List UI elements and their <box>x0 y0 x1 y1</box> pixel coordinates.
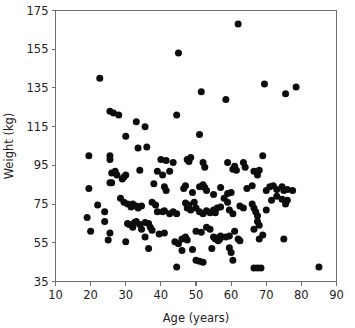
data-point <box>280 235 287 242</box>
data-point <box>122 238 129 245</box>
x-tick-label: 70 <box>259 288 274 302</box>
data-point <box>182 182 189 189</box>
data-point <box>106 156 113 163</box>
data-point <box>261 81 268 88</box>
data-point <box>119 175 126 182</box>
y-tick-label: 75 <box>34 197 49 211</box>
data-point <box>138 226 145 233</box>
data-point <box>224 159 231 166</box>
data-point <box>289 187 296 194</box>
data-point <box>106 230 113 237</box>
y-axis-title: Weight (kg) <box>2 113 16 180</box>
data-point <box>250 226 257 233</box>
data-point <box>207 226 214 233</box>
data-point <box>196 131 203 138</box>
x-tick-label: 50 <box>189 288 204 302</box>
y-tick-label: 55 <box>34 236 49 250</box>
data-point <box>187 154 194 161</box>
data-point <box>282 90 289 97</box>
data-point <box>257 264 264 271</box>
data-point <box>170 159 177 166</box>
x-tick-label: 60 <box>224 288 239 302</box>
data-point <box>84 214 91 221</box>
y-tick-label: 35 <box>34 275 49 289</box>
data-point <box>87 228 94 235</box>
data-point <box>163 187 170 194</box>
data-point <box>142 233 149 240</box>
data-point <box>161 230 168 237</box>
y-tick-label: 135 <box>27 81 49 95</box>
data-point <box>217 203 224 210</box>
data-point <box>96 75 103 82</box>
data-point <box>108 179 115 186</box>
x-tick-label: 90 <box>329 288 344 302</box>
data-point <box>222 96 229 103</box>
data-point <box>201 164 208 171</box>
data-point <box>175 240 182 247</box>
scatter-plot-figure: 35557595115135155175 102030405060708090 … <box>0 0 355 328</box>
data-point <box>189 189 196 196</box>
data-point <box>163 157 170 164</box>
data-point <box>224 199 231 206</box>
x-tick-label: 20 <box>83 288 98 302</box>
data-point <box>152 202 159 209</box>
data-point <box>85 185 92 192</box>
data-point <box>200 259 207 266</box>
data-point <box>85 152 92 159</box>
data-point <box>226 233 233 240</box>
data-point <box>150 180 157 187</box>
data-point <box>259 152 266 159</box>
data-point <box>143 143 150 150</box>
scatter-markers <box>84 21 323 272</box>
data-point <box>198 229 205 236</box>
data-point <box>145 245 152 252</box>
y-tick-label: 155 <box>27 42 49 56</box>
data-point <box>229 210 236 217</box>
data-point <box>236 237 243 244</box>
y-axis-ticks: 35557595115135155175 <box>27 4 56 289</box>
data-point <box>228 189 235 196</box>
data-point <box>184 236 191 243</box>
data-point <box>101 218 108 225</box>
data-point <box>122 133 129 140</box>
data-point <box>115 112 122 119</box>
x-tick-label: 80 <box>294 288 309 302</box>
data-point <box>166 168 173 175</box>
data-point <box>173 263 180 270</box>
y-tick-label: 95 <box>34 158 49 172</box>
x-axis-title: Age (years) <box>163 311 230 325</box>
x-tick-label: 10 <box>48 288 63 302</box>
data-point <box>231 228 238 235</box>
x-axis-ticks: 102030405060708090 <box>48 282 344 302</box>
data-point <box>94 202 101 209</box>
data-point <box>249 182 256 189</box>
plot-frame <box>56 11 337 282</box>
data-point <box>233 167 240 174</box>
data-point <box>138 203 145 210</box>
data-point <box>240 204 247 211</box>
data-point <box>228 249 235 256</box>
data-point <box>173 112 180 119</box>
data-point <box>198 88 205 95</box>
data-point <box>229 257 236 264</box>
data-point <box>284 197 291 204</box>
data-point <box>159 172 166 179</box>
data-point <box>217 184 224 191</box>
data-point <box>105 236 112 243</box>
data-point <box>259 232 266 239</box>
data-point <box>142 123 149 130</box>
data-point <box>175 50 182 57</box>
y-tick-label: 175 <box>27 4 49 18</box>
data-point <box>315 263 322 270</box>
data-point <box>242 164 249 171</box>
y-tick-label: 115 <box>27 120 49 134</box>
data-point <box>178 247 185 254</box>
data-point <box>208 245 215 252</box>
data-point <box>256 167 263 174</box>
data-point <box>203 187 210 194</box>
data-point <box>135 144 142 151</box>
data-point <box>293 83 300 90</box>
data-point <box>101 208 108 215</box>
data-point <box>149 227 156 234</box>
scatter-plot-canvas: 35557595115135155175 102030405060708090 … <box>0 0 355 328</box>
